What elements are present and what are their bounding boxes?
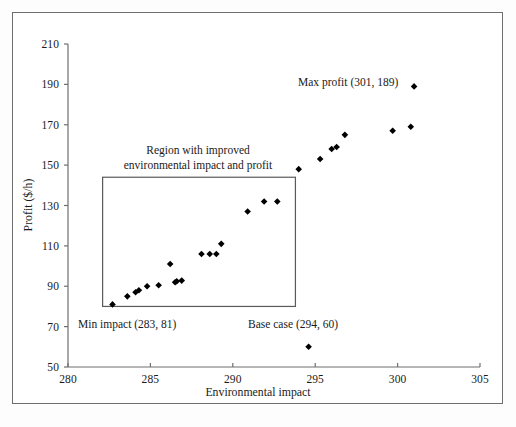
y-tick-label: 150 [41, 159, 59, 171]
data-point [144, 283, 151, 290]
data-point [124, 293, 131, 300]
y-tick-label: 190 [41, 78, 59, 90]
data-point [305, 344, 312, 351]
min-impact-annotation: Min impact (283, 81) [78, 318, 176, 330]
improved-region-box [103, 177, 296, 306]
y-tick-label: 50 [47, 361, 59, 373]
data-point [167, 261, 174, 268]
plot-canvas [0, 0, 516, 427]
data-point-markers [109, 83, 417, 350]
y-tick-label: 70 [47, 321, 59, 333]
data-point [317, 156, 324, 163]
y-tick-label: 110 [42, 240, 59, 252]
x-tick-label: 290 [224, 373, 242, 385]
x-tick-label: 285 [142, 373, 160, 385]
data-point [198, 251, 205, 258]
data-point [218, 241, 225, 248]
x-tick-label: 305 [471, 373, 489, 385]
data-point [295, 166, 302, 173]
scatter-plot-figure: 507090110130150170190210 280285290295300… [0, 0, 516, 427]
y-tick-label: 170 [41, 119, 59, 131]
x-tick-label: 295 [306, 373, 324, 385]
data-point [342, 132, 349, 139]
data-point [261, 198, 268, 205]
plot-area: 507090110130150170190210 280285290295300… [0, 0, 516, 427]
data-point [411, 83, 418, 90]
data-point [213, 251, 220, 258]
y-axis-title: Profit ($/h) [21, 179, 36, 232]
data-point [206, 251, 213, 258]
max-profit-annotation: Max profit (301, 189) [298, 76, 398, 88]
y-tick-label: 130 [41, 200, 59, 212]
base-case-annotation: Base case (294, 60) [248, 318, 338, 330]
x-tick-label: 300 [389, 373, 407, 385]
y-tick-label: 90 [47, 280, 59, 292]
y-tick-label: 210 [41, 38, 59, 50]
x-axis-title: Environmental impact [205, 385, 310, 400]
data-point [178, 277, 185, 284]
region-annotation-line2: environmental impact and profit [124, 158, 273, 173]
data-point [407, 123, 414, 130]
data-point [389, 128, 396, 135]
data-point [244, 208, 251, 215]
data-point [155, 282, 162, 289]
region-annotation-line1: Region with improved [124, 143, 273, 158]
data-point [274, 198, 281, 205]
region-annotation: Region with improved environmental impac… [124, 143, 273, 173]
x-tick-label: 280 [59, 373, 77, 385]
